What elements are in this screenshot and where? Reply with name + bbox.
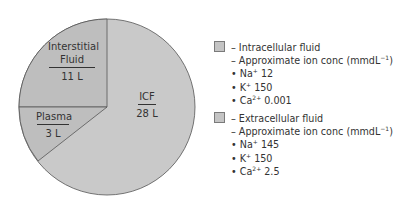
- bullet-icon: •: [231, 68, 237, 79]
- bullet-icon: •: [231, 153, 237, 164]
- ion-name: Na: [240, 139, 253, 150]
- fraction-rule: [37, 124, 69, 125]
- bullet-icon: •: [231, 166, 237, 177]
- label-plasma-value: 3 L: [36, 127, 70, 140]
- label-interstitial-value: 11 L: [48, 70, 96, 83]
- ion-value: 150: [254, 153, 272, 164]
- legend-subtitle-end: ): [389, 126, 393, 137]
- ion-name: Na: [240, 68, 253, 79]
- legend-label: – Intracellular fluid: [231, 42, 320, 53]
- ion-value: 0.001: [264, 95, 291, 106]
- legend-swatch-ecf: [214, 112, 225, 123]
- label-plasma-name: Plasma: [36, 110, 70, 123]
- ion-charge: +: [246, 81, 251, 88]
- label-interstitial: Interstitial Fluid 11 L: [48, 40, 96, 83]
- ion-charge: 2+: [252, 165, 261, 172]
- legend-label: – Extracellular fluid: [231, 113, 323, 124]
- label-interstitial-name2: Fluid: [48, 53, 96, 66]
- label-icf-name: ICF: [132, 90, 162, 103]
- ion-charge: +: [253, 67, 258, 74]
- legend-swatch-icf: [214, 41, 225, 52]
- label-plasma: Plasma 3 L: [36, 110, 70, 140]
- bullet-icon: •: [231, 95, 237, 106]
- ion-value: 2.5: [264, 166, 279, 177]
- legend-extracellular: – Extracellular fluid – Approximate ion …: [214, 112, 393, 178]
- label-interstitial-name1: Interstitial: [48, 40, 96, 53]
- ion-charge: 2+: [252, 94, 261, 101]
- bullet-icon: •: [231, 82, 237, 93]
- unit-exponent: −1: [380, 125, 389, 132]
- legend-subtitle-end: ): [389, 55, 393, 66]
- ion-name: Ca: [240, 166, 253, 177]
- legend-intracellular: – Intracellular fluid – Approximate ion …: [214, 41, 393, 107]
- fraction-rule: [138, 104, 156, 105]
- label-icf-value: 28 L: [132, 107, 162, 120]
- bullet-icon: •: [231, 139, 237, 150]
- unit-exponent: −1: [380, 54, 389, 61]
- ion-name: Ca: [240, 95, 253, 106]
- ion-value: 145: [261, 139, 279, 150]
- ion-value: 150: [254, 82, 272, 93]
- ion-charge: +: [253, 138, 258, 145]
- fraction-rule: [49, 67, 95, 68]
- label-icf: ICF 28 L: [132, 90, 162, 120]
- legend-subtitle: – Approximate ion conc (mmdL: [231, 126, 380, 137]
- ion-value: 12: [261, 68, 273, 79]
- legend-subtitle: – Approximate ion conc (mmdL: [231, 55, 380, 66]
- ion-charge: +: [246, 152, 251, 159]
